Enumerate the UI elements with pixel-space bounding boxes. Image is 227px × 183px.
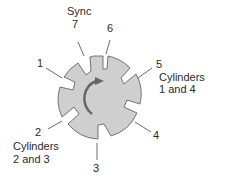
slot-7-label: 7: [72, 18, 78, 30]
cylinders-2-3-label-line2: 2 and 3: [13, 153, 50, 165]
slot-4-label: 4: [153, 129, 159, 141]
cylinders-1-4-label-line1: Cylinders: [159, 71, 205, 83]
slot-5-label: 5: [156, 58, 162, 70]
trigger-wheel: [58, 56, 141, 139]
slot-3-label: 3: [93, 162, 99, 174]
slot-2-label: 2: [35, 126, 41, 138]
sync-label: Sync: [67, 5, 91, 17]
cylinders-1-4-label-line2: 1 and 4: [159, 83, 196, 95]
slot-1-label: 1: [37, 57, 43, 69]
slot-6-label: 6: [107, 22, 113, 34]
cylinders-2-3-label-line1: Cylinders: [13, 140, 59, 152]
